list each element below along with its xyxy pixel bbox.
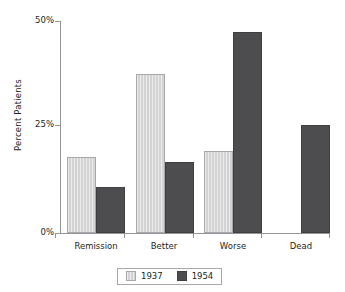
x-label-dead: Dead: [267, 241, 335, 251]
x-tick-mark-2: [193, 233, 194, 238]
bar-better-1937[interactable]: [136, 74, 165, 233]
bar-remission-1954[interactable]: [96, 187, 125, 233]
legend-item-1937[interactable]: 1937: [126, 271, 163, 281]
legend-swatch-1937: [126, 271, 136, 281]
y-tick-0: 0%: [26, 227, 54, 238]
legend-item-1954[interactable]: 1954: [177, 271, 214, 281]
x-tick-mark-right: [329, 233, 330, 238]
y-tick-50: 50%: [26, 15, 54, 26]
x-tick-mark-3: [261, 233, 262, 238]
y-tick-25: 25%: [26, 119, 54, 130]
bar-better-1954[interactable]: [165, 162, 194, 233]
bar-worse-1937[interactable]: [204, 151, 233, 233]
y-axis-title: Percent Patients: [13, 70, 23, 160]
bar-chart: Percent Patients 50% 25% 0% Remission Be…: [0, 0, 345, 292]
y-tick-label-50: 50%: [26, 15, 54, 25]
x-label-worse: Worse: [199, 241, 267, 251]
bar-remission-1937[interactable]: [67, 157, 96, 233]
legend-label-1954: 1954: [192, 272, 214, 281]
legend-swatch-1954: [177, 271, 187, 281]
y-tick-label-25: 25%: [26, 119, 54, 129]
x-tick-mark-left: [55, 233, 56, 238]
bar-dead-1954[interactable]: [301, 125, 330, 233]
plot-area: [61, 21, 329, 233]
legend-label-1937: 1937: [141, 272, 163, 281]
x-tick-mark-1: [124, 233, 125, 238]
x-label-better: Better: [130, 241, 198, 251]
x-label-remission: Remission: [62, 241, 130, 251]
bar-worse-1954[interactable]: [233, 32, 262, 233]
y-tick-label-0: 0%: [26, 227, 54, 237]
legend: 1937 1954: [117, 268, 222, 285]
